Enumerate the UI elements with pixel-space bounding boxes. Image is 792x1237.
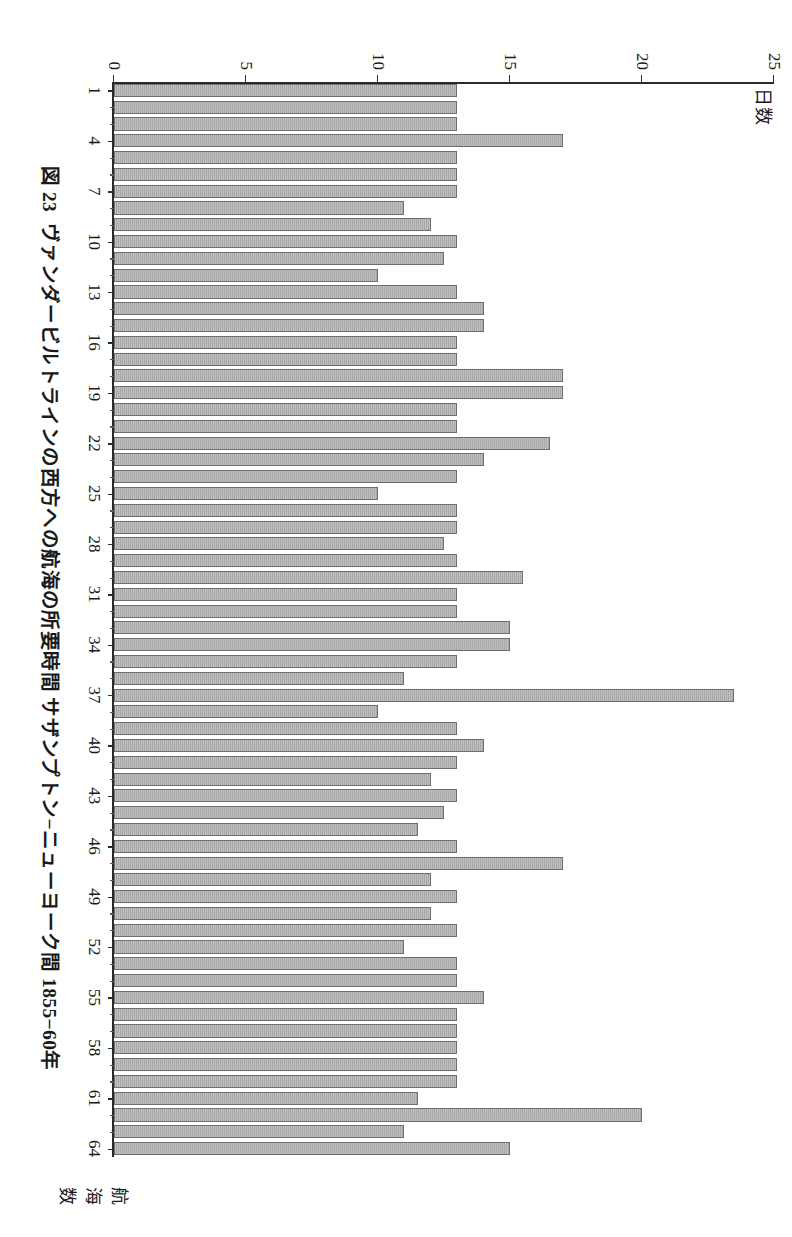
bar xyxy=(114,168,457,181)
bar xyxy=(114,84,457,97)
value-tick-mark xyxy=(377,75,378,82)
bar xyxy=(114,134,563,147)
figure-number: 図 23 xyxy=(39,166,60,212)
value-tick-mark xyxy=(641,75,642,82)
bar xyxy=(114,201,404,214)
category-tick-label: 13 xyxy=(86,277,103,307)
bar xyxy=(114,588,457,601)
bar xyxy=(114,655,457,668)
bar xyxy=(114,756,457,769)
bar xyxy=(114,554,457,567)
value-tick-mark xyxy=(509,75,510,82)
category-tick-label: 25 xyxy=(86,479,103,509)
value-tick-mark xyxy=(113,75,114,82)
category-tick-label: 7 xyxy=(86,176,103,206)
bar xyxy=(114,571,523,584)
bar xyxy=(114,621,510,634)
bar xyxy=(114,806,444,819)
value-tick-mark xyxy=(245,75,246,82)
bar xyxy=(114,1092,418,1105)
bar xyxy=(114,403,457,416)
bar-chart-plot-area: 0510152025 14710131619222528313437404346… xyxy=(102,82,774,1157)
rotated-chart-canvas: 0510152025 14710131619222528313437404346… xyxy=(0,0,792,1237)
category-tick-label: 55 xyxy=(86,982,103,1012)
category-tick-label: 37 xyxy=(86,680,103,710)
category-tick-label: 46 xyxy=(86,831,103,861)
bar xyxy=(114,252,444,265)
bar xyxy=(114,504,457,517)
bar xyxy=(114,1058,457,1071)
bar xyxy=(114,857,563,870)
category-tick-label: 61 xyxy=(86,1083,103,1113)
value-tick-label: 15 xyxy=(502,38,519,70)
bar xyxy=(114,353,457,366)
figure-caption: 図 23ヴァンダービルトラインの西方への航海の所要時間 サザンプトン−ニューヨー… xyxy=(37,0,66,1237)
figure-title-text: ヴァンダービルトラインの西方への航海の所要時間 サザンプトン−ニューヨーク間 1… xyxy=(39,223,60,1071)
bar xyxy=(114,269,378,282)
bar xyxy=(114,840,457,853)
bar xyxy=(114,151,457,164)
category-tick-label: 64 xyxy=(86,1134,103,1164)
figure-page: 0510152025 14710131619222528313437404346… xyxy=(0,0,792,1237)
bar xyxy=(114,638,510,651)
bar xyxy=(114,420,457,433)
category-tick-label: 40 xyxy=(86,730,103,760)
category-tick-label: 49 xyxy=(86,882,103,912)
bar xyxy=(114,1008,457,1021)
bar xyxy=(114,386,563,399)
value-tick-label: 20 xyxy=(634,38,651,70)
bar xyxy=(114,672,404,685)
bar xyxy=(114,1041,457,1054)
value-tick-label: 0 xyxy=(106,38,123,70)
bar xyxy=(114,890,457,903)
bar xyxy=(114,957,457,970)
bar xyxy=(114,218,431,231)
bar xyxy=(114,1142,510,1155)
bar xyxy=(114,773,431,786)
category-tick-label: 52 xyxy=(86,932,103,962)
bar xyxy=(114,823,418,836)
bar xyxy=(114,537,444,550)
bar xyxy=(114,1125,404,1138)
category-tick-label: 43 xyxy=(86,781,103,811)
bar xyxy=(114,319,484,332)
bar xyxy=(114,1075,457,1088)
bar xyxy=(114,873,431,886)
bar xyxy=(114,302,484,315)
bar xyxy=(114,974,457,987)
bar xyxy=(114,369,563,382)
bar xyxy=(114,185,457,198)
value-tick-label: 5 xyxy=(238,38,255,70)
value-tick-label: 10 xyxy=(370,38,387,70)
bar xyxy=(114,235,457,248)
bar xyxy=(114,991,484,1004)
category-tick-label: 34 xyxy=(86,630,103,660)
bar xyxy=(114,470,457,483)
category-tick-label: 22 xyxy=(86,428,103,458)
category-tick-label: 1 xyxy=(86,75,103,105)
value-tick-label: 25 xyxy=(766,38,783,70)
bar xyxy=(114,789,457,802)
bar xyxy=(114,285,457,298)
category-tick-label: 58 xyxy=(86,1033,103,1063)
bar xyxy=(114,117,457,130)
bar xyxy=(114,722,457,735)
category-tick-label: 16 xyxy=(86,327,103,357)
bar xyxy=(114,907,431,920)
bar xyxy=(114,689,734,702)
category-tick-label: 28 xyxy=(86,529,103,559)
bar xyxy=(114,437,550,450)
category-tick-label: 4 xyxy=(86,126,103,156)
bar xyxy=(114,739,484,752)
category-tick-label: 19 xyxy=(86,378,103,408)
bar xyxy=(114,521,457,534)
category-tick-label: 10 xyxy=(86,227,103,257)
bar xyxy=(114,1024,457,1037)
bar xyxy=(114,487,378,500)
bar xyxy=(114,924,457,937)
bar xyxy=(114,101,457,114)
bar xyxy=(114,453,484,466)
bar xyxy=(114,336,457,349)
category-tick-label: 31 xyxy=(86,579,103,609)
value-axis-label: 日数 xyxy=(752,88,778,126)
